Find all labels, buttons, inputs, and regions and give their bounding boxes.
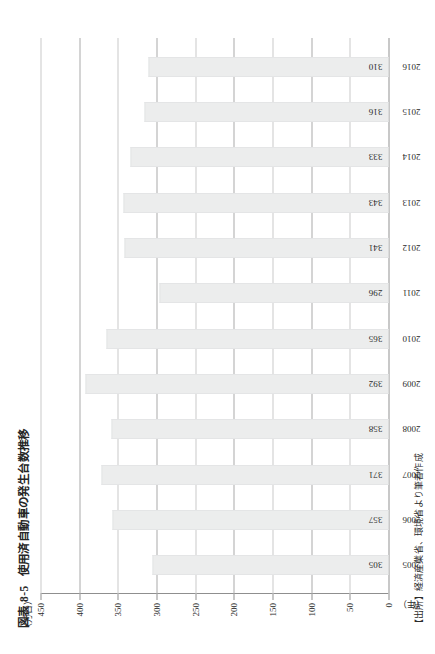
bar-slot: 316: [40, 89, 388, 134]
bar-slot: 343: [40, 180, 388, 225]
bar-2009[interactable]: 392: [85, 374, 388, 394]
y-axis-tick-label: 450: [35, 603, 45, 617]
y-axis-tick: [349, 594, 350, 600]
bar-value-label: 310: [368, 62, 382, 72]
x-axis-tick-label: 2011: [402, 288, 420, 298]
x-tick-slot: 2015: [389, 89, 435, 134]
bar-2008[interactable]: 358: [111, 419, 388, 439]
x-axis-tick-label: 2016: [402, 62, 420, 72]
bar-slot: 341: [40, 225, 388, 270]
page-title: 使用済自動車の発生台数推移: [17, 428, 29, 576]
x-tick-slot: 2008: [389, 407, 435, 452]
bar-value-label: 392: [368, 379, 382, 389]
bar-slot: 357: [40, 497, 388, 542]
x-axis-tick-label: 2013: [402, 198, 420, 208]
y-axis-tick: [195, 594, 196, 600]
y-axis-tick-label: 400: [74, 603, 84, 617]
y-axis-tick: [40, 594, 41, 600]
y-axis-tick-label: 100: [306, 603, 316, 617]
x-tick-slot: 2011: [389, 271, 435, 316]
x-tick-slot: 2013: [389, 180, 435, 225]
bar-value-label: 296: [368, 288, 382, 298]
bar-value-label: 371: [368, 470, 382, 480]
y-axis-tick-label: 200: [228, 603, 238, 617]
y-axis-tick: [156, 594, 157, 600]
y-axis-tick: [272, 594, 273, 600]
bar-value-label: 341: [368, 243, 382, 253]
bar-2012[interactable]: 341: [124, 238, 388, 258]
x-tick-slot: 2010: [389, 316, 435, 361]
bar-2005[interactable]: 305: [152, 555, 388, 575]
y-axis-tick-label: 150: [267, 603, 277, 617]
bar-2007[interactable]: 371: [101, 465, 388, 485]
bar-2015[interactable]: 316: [144, 102, 388, 122]
x-axis-tick-label: 2009: [402, 379, 420, 389]
y-axis-tick-label: 50: [344, 603, 354, 612]
x-axis-tick-label: 2012: [402, 243, 420, 253]
rotated-page-stage: 図表 8-5使用済自動車の発生台数推移 （万台） 050100150200250…: [0, 0, 435, 654]
bar-2010[interactable]: 365: [106, 329, 388, 349]
x-axis-tick-label: 2008: [402, 424, 420, 434]
y-axis-tick: [79, 594, 80, 600]
bar-slot: 365: [40, 316, 388, 361]
bar-2011[interactable]: 296: [159, 283, 388, 303]
y-axis-tick-label: 300: [151, 603, 161, 617]
plot-area: 050100150200250300350400450 305357371358…: [40, 38, 388, 594]
bar-value-label: 358: [368, 424, 382, 434]
bar-series: 305357371358392365296341343333316310: [40, 38, 388, 594]
x-tick-slot: 2012: [389, 225, 435, 270]
bar-value-label: 305: [368, 560, 382, 570]
bar-slot: 371: [40, 452, 388, 497]
bar-2014[interactable]: 333: [130, 147, 388, 167]
x-tick-slot: 2009: [389, 361, 435, 406]
bar-value-label: 357: [368, 515, 382, 525]
bar-2013[interactable]: 343: [123, 193, 388, 213]
bar-2016[interactable]: 310: [148, 57, 388, 77]
y-axis-tick: [233, 594, 234, 600]
x-tick-slot: 2016: [389, 44, 435, 89]
x-axis-tick-label: 2015: [402, 107, 420, 117]
source-note: 【出所】経済産業省、環境省より筆者作成: [411, 453, 424, 628]
bar-slot: 333: [40, 135, 388, 180]
bar-slot: 305: [40, 543, 388, 588]
y-axis-tick: [311, 594, 312, 600]
bar-value-label: 316: [368, 107, 382, 117]
figure-page: 図表 8-5使用済自動車の発生台数推移 （万台） 050100150200250…: [0, 0, 435, 654]
bar-slot: 310: [40, 44, 388, 89]
y-axis-unit-label: （万台）: [20, 596, 33, 632]
y-axis-tick-label: 350: [112, 603, 122, 617]
x-axis-tick-label: 2010: [402, 334, 420, 344]
bar-2006[interactable]: 357: [112, 510, 388, 530]
bar-value-label: 365: [368, 334, 382, 344]
bar-value-label: 333: [368, 152, 382, 162]
y-axis-tick-label: 250: [190, 603, 200, 617]
y-axis-tick: [117, 594, 118, 600]
x-axis-tick-label: 2014: [402, 152, 420, 162]
x-tick-slot: 2014: [389, 135, 435, 180]
bar-value-label: 343: [368, 198, 382, 208]
bar-slot: 392: [40, 361, 388, 406]
bar-slot: 296: [40, 271, 388, 316]
bar-slot: 358: [40, 407, 388, 452]
